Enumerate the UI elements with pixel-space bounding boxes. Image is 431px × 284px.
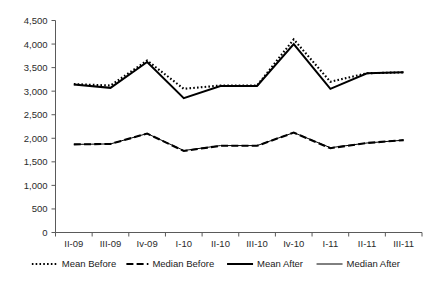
x-tick-label: Iv-09 <box>137 238 158 249</box>
series-lines <box>74 39 404 151</box>
legend-label: Median Before <box>152 258 214 269</box>
chart-legend: Mean BeforeMedian BeforeMean AfterMedian… <box>32 258 400 269</box>
y-tick-label: 4,500 <box>24 15 48 26</box>
y-tick-label: 0 <box>42 227 47 238</box>
y-tick-label: 3,000 <box>24 86 48 97</box>
y-tick-label: 500 <box>32 203 48 214</box>
legend-label: Median After <box>347 258 400 269</box>
x-tick-label: II-11 <box>358 238 376 249</box>
series-line-mean-before <box>74 39 404 88</box>
series-line-median-after <box>74 133 404 151</box>
line-chart: 05001,0001,5002,0002,5003,0003,5004,0004… <box>0 0 431 284</box>
x-tick-label: II-09 <box>64 238 83 249</box>
chart-canvas: 05001,0001,5002,0002,5003,0003,5004,0004… <box>0 0 431 284</box>
x-tick-label: II-10 <box>211 238 230 249</box>
series-line-mean-after <box>74 44 404 98</box>
x-tick-label: III-10 <box>246 238 268 249</box>
y-tick-label: 1,000 <box>24 180 48 191</box>
y-tick-label: 2,000 <box>24 133 48 144</box>
x-tick-label: I-10 <box>176 238 192 249</box>
legend-label: Mean After <box>257 258 303 269</box>
y-tick-label: 1,500 <box>24 156 48 167</box>
y-axis: 05001,0001,5002,0002,5003,0003,5004,0004… <box>24 15 56 238</box>
x-tick-label: I-11 <box>323 238 339 249</box>
y-tick-label: 3,500 <box>24 62 48 73</box>
x-axis: II-09III-09Iv-09I-10II-10III-10Iv-10I-11… <box>56 233 423 249</box>
legend-label: Mean Before <box>62 258 116 269</box>
x-tick-label: III-11 <box>393 238 414 249</box>
y-tick-label: 2,500 <box>24 109 48 120</box>
y-tick-label: 4,000 <box>24 39 48 50</box>
series-line-median-before <box>74 133 404 151</box>
x-tick-label: Iv-10 <box>283 238 304 249</box>
x-tick-label: III-09 <box>100 238 122 249</box>
